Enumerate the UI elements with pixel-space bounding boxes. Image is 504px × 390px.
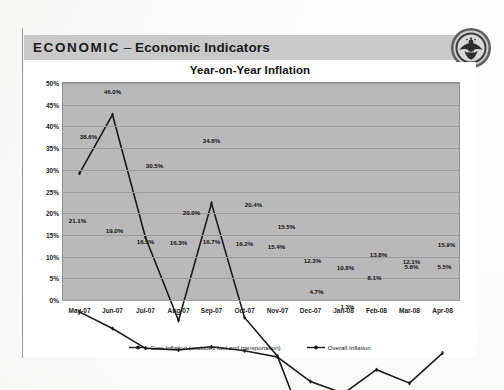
y-axis-tick-label: 45% (46, 101, 59, 108)
data-point-label: 30.5% (146, 161, 164, 168)
data-point-marker (441, 351, 443, 355)
legend-label: Overall Inflation (328, 344, 371, 351)
data-point-label: 16.3% (170, 239, 188, 246)
chart-plot-area: 0%5%10%15%20%25%30%35%40%45%50%May-07Jun… (62, 82, 460, 301)
legend-marker-icon (129, 344, 147, 351)
data-point-label: 21.1% (69, 217, 87, 224)
x-axis-tick-label: Jun-07 (102, 307, 123, 314)
data-point-marker (375, 368, 377, 372)
x-axis-tick-label: May-07 (68, 307, 90, 314)
y-axis-tick-label: 35% (46, 145, 59, 152)
grid-line (63, 235, 459, 236)
page-title-separator: – (120, 40, 135, 55)
x-axis-tick-label: Sep-07 (201, 307, 222, 314)
legend-label: Core Inflation (excludes fuel and transp… (150, 344, 280, 351)
data-point-label: 10.8% (337, 264, 355, 271)
grid-line (63, 105, 459, 106)
data-point-marker (309, 380, 311, 384)
chart-title: Year-on-Year Inflation (24, 64, 476, 76)
y-axis-tick-label: 30% (46, 166, 59, 173)
y-axis-tick-label: 25% (46, 188, 59, 195)
x-axis-tick-label: Jul-07 (136, 307, 155, 314)
data-point-label: 20.0% (183, 209, 201, 216)
x-axis-tick-label: Dec-07 (300, 307, 321, 314)
grid-line (63, 148, 459, 149)
grid-line (63, 83, 459, 84)
data-point-marker (111, 113, 113, 117)
grid-line (63, 192, 459, 193)
data-point-marker (111, 327, 113, 331)
x-axis-tick-label: Nov-07 (267, 307, 289, 314)
x-axis-tick-label: Feb-08 (366, 307, 387, 314)
data-point-label: 15.4% (268, 243, 286, 250)
data-point-label: 15.9% (438, 240, 456, 247)
data-point-label: 5.6% (404, 262, 418, 269)
x-axis-tick-label: Aug-07 (167, 307, 189, 314)
y-axis-tick-label: 15% (46, 231, 59, 238)
data-point-label: 34.8% (203, 136, 221, 143)
slide-left-rule (22, 28, 23, 358)
data-point-marker (243, 315, 245, 319)
slide-page: ECONOMIC – Economic Indicators Year-on-Y… (0, 0, 504, 390)
grid-line (63, 213, 459, 214)
y-axis-tick-label: 0% (50, 297, 59, 304)
grid-line (63, 278, 459, 279)
data-point-label: 15.5% (278, 222, 296, 229)
legend-item-1[interactable]: Overall Inflation (307, 344, 371, 351)
x-axis-tick-label: Oct-07 (234, 307, 254, 314)
data-point-label: 16.5% (137, 238, 155, 245)
chart-legend: Core Inflation (excludes fuel and transp… (24, 344, 476, 351)
data-point-label: 16.2% (236, 239, 254, 246)
y-axis-tick-label: 40% (46, 123, 59, 130)
data-point-marker (210, 201, 212, 205)
page-title: ECONOMIC – Economic Indicators (33, 40, 270, 55)
data-point-label: 12.3% (304, 256, 322, 263)
data-point-label: 38.6% (80, 133, 98, 140)
grid-line (63, 170, 459, 171)
x-axis-tick-label: Mar-08 (399, 307, 420, 314)
data-point-label: 13.8% (370, 251, 388, 258)
data-point-label: 16.7% (203, 237, 221, 244)
grid-line (63, 300, 459, 301)
data-point-marker (408, 381, 410, 385)
data-point-label: 19.0% (106, 226, 124, 233)
grid-line (63, 126, 459, 127)
legend-item-0[interactable]: Core Inflation (excludes fuel and transp… (129, 344, 280, 351)
page-title-category: ECONOMIC (33, 40, 120, 55)
data-point-label: 46.0% (104, 88, 122, 95)
data-point-marker (276, 354, 278, 358)
data-point-marker (177, 319, 179, 323)
y-axis-tick-label: 5% (50, 275, 59, 282)
x-axis-tick-label: Apr-08 (432, 307, 453, 314)
y-axis-tick-label: 50% (46, 80, 59, 87)
slide-header-band: ECONOMIC – Economic Indicators (24, 35, 468, 60)
legend-marker-icon (307, 344, 325, 351)
y-axis-tick-label: 10% (46, 253, 59, 260)
data-point-label: 8.1% (367, 273, 381, 280)
grid-line (63, 257, 459, 258)
y-axis-tick-label: 20% (46, 210, 59, 217)
inflation-chart: Year-on-Year Inflation 0%5%10%15%20%25%3… (24, 62, 476, 357)
data-point-label: 1.3% (340, 303, 354, 310)
data-point-label: 5.5% (437, 263, 451, 270)
data-point-marker (78, 171, 80, 175)
page-title-subject: Economic Indicators (135, 40, 270, 55)
data-point-label: 4.7% (309, 287, 323, 294)
data-point-label: 20.4% (245, 201, 263, 208)
